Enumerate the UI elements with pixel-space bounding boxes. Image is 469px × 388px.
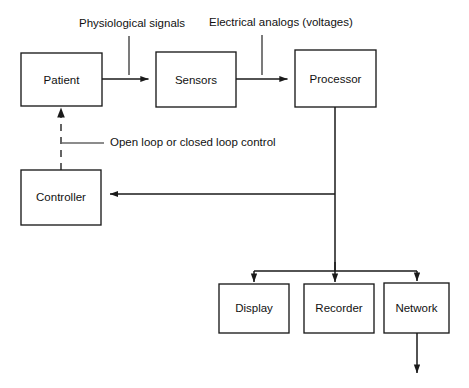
edge-controller-to-patient xyxy=(57,108,65,171)
annotation-electrical-analogs: Electrical analogs (voltages) xyxy=(209,16,353,28)
node-display-label: Display xyxy=(235,302,273,314)
node-recorder[interactable]: Recorder xyxy=(304,284,374,333)
diagram-svg: Patient Sensors Processor Controller Dis… xyxy=(0,0,469,388)
diagram-canvas: Patient Sensors Processor Controller Dis… xyxy=(0,0,469,388)
node-display[interactable]: Display xyxy=(219,284,289,333)
node-sensors-label: Sensors xyxy=(175,74,217,86)
annotation-physiological-signals: Physiological signals xyxy=(79,17,185,29)
node-sensors[interactable]: Sensors xyxy=(156,52,236,107)
node-processor[interactable]: Processor xyxy=(295,50,376,107)
node-recorder-label: Recorder xyxy=(315,302,362,314)
node-network-label: Network xyxy=(395,302,437,314)
node-controller[interactable]: Controller xyxy=(21,170,101,225)
node-patient-label: Patient xyxy=(44,74,81,86)
node-patient[interactable]: Patient xyxy=(21,53,102,106)
annotation-control-mode: Open loop or closed loop control xyxy=(110,136,276,148)
node-network[interactable]: Network xyxy=(384,283,449,333)
node-controller-label: Controller xyxy=(36,191,86,203)
edge-controller-to-patient-arrowhead xyxy=(57,108,65,118)
node-processor-label: Processor xyxy=(310,73,362,85)
